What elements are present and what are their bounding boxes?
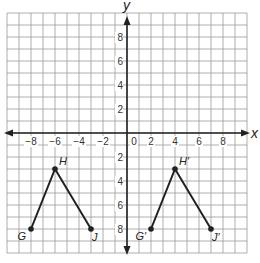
point-H	[52, 166, 58, 172]
y-tick-label: 6	[117, 56, 123, 67]
x-tick-label: −6	[49, 136, 61, 147]
x-tick-label: 6	[196, 136, 202, 147]
y-axis-down-arrow-icon	[124, 246, 131, 255]
point-label: J′	[211, 231, 221, 243]
point-label: G	[17, 230, 26, 242]
y-tick-label: 6	[117, 200, 123, 211]
y-tick-label: 8	[117, 224, 123, 235]
point-H′	[172, 166, 178, 172]
x-tick-label: −2	[97, 136, 109, 147]
axes	[4, 16, 250, 255]
x-tick-label: 4	[172, 136, 178, 147]
y-tick-label: 8	[117, 32, 123, 43]
y-tick-label: 4	[117, 80, 123, 91]
point-G	[28, 226, 34, 232]
x-tick-label: −4	[73, 136, 85, 147]
x-tick-label: 8	[220, 136, 226, 147]
point-label: H′	[179, 155, 190, 167]
figure-original	[31, 169, 91, 229]
y-axis-up-arrow-icon	[124, 16, 131, 25]
point-label: G′	[135, 230, 147, 242]
x-tick-label: 2	[148, 136, 154, 147]
x-axis-label: x	[250, 125, 259, 141]
point-label: J	[91, 231, 98, 243]
x-axis-left-arrow-icon	[4, 130, 13, 137]
y-tick-label: 2	[117, 152, 123, 163]
origin-label: 0	[131, 136, 137, 147]
y-tick-label: 2	[117, 104, 123, 115]
point-G′	[148, 226, 154, 232]
x-axis-right-arrow-icon	[241, 130, 250, 137]
point-label: H	[59, 155, 67, 167]
y-axis-label: y	[122, 0, 131, 13]
x-tick-label: −8	[25, 136, 37, 147]
y-tick-label: 4	[117, 176, 123, 187]
figure-image	[151, 169, 211, 229]
coordinate-plane: −8−6−4−22468864224680 GHJG′H′J′ x y	[0, 0, 260, 263]
